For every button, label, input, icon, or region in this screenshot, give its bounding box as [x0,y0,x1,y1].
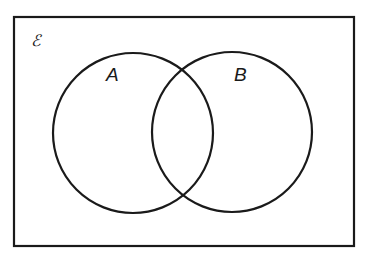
set-b-circle [152,52,312,212]
set-b-label: B [234,64,247,85]
venn-diagram: ℰ A B [0,0,371,258]
set-a-label: A [105,64,119,85]
set-a-circle [53,53,213,213]
universal-set-label: ℰ [31,31,43,50]
universal-set-frame [14,17,354,246]
